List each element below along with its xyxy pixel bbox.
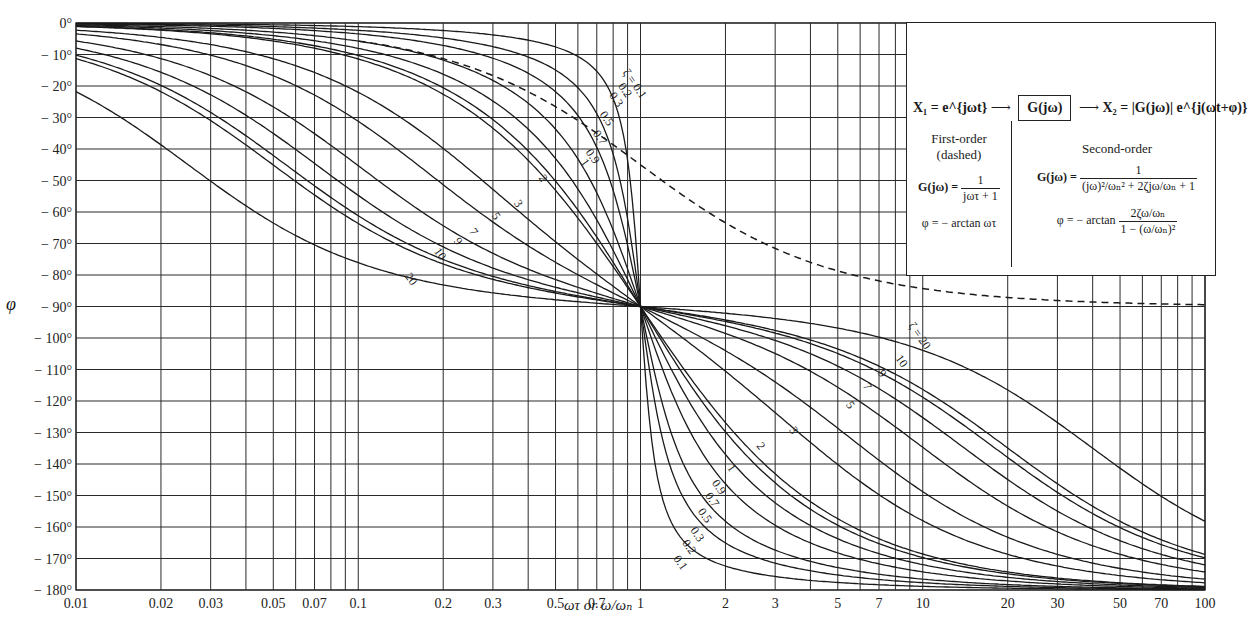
zeta-label-upper: 1 bbox=[578, 156, 593, 169]
zeta-label-lower: 7 bbox=[860, 380, 875, 393]
y-tick-label: − 60° bbox=[41, 205, 72, 220]
y-tick-label: − 90° bbox=[41, 300, 72, 315]
y-tick-label: − 70° bbox=[41, 237, 72, 252]
y-tick-label: 0° bbox=[59, 16, 72, 31]
y-tick-label: − 160° bbox=[34, 520, 72, 535]
y-tick-label: − 10° bbox=[41, 48, 72, 63]
zeta-label-lower: 2 bbox=[753, 439, 768, 452]
x-tick-label: 0.1 bbox=[350, 596, 368, 611]
second-order-column: Second-order G(jω) = 1(jω)²/ωₙ² + 2ζjω/ω… bbox=[1019, 141, 1215, 237]
x-tick-label: 50 bbox=[1113, 596, 1127, 611]
y-axis-label: φ bbox=[6, 294, 16, 315]
x-tick-label: 0.2 bbox=[434, 596, 452, 611]
zeta-label-upper: 20 bbox=[402, 270, 420, 288]
legend-divider bbox=[1011, 121, 1012, 267]
x-tick-label: 0.05 bbox=[261, 596, 286, 611]
y-tick-label: − 130° bbox=[34, 426, 72, 441]
first-order-title: First-order bbox=[911, 131, 1007, 147]
first-order-subtitle: (dashed) bbox=[911, 147, 1007, 163]
second-order-title: Second-order bbox=[1019, 141, 1215, 157]
zeta-label-lower: 3 bbox=[786, 424, 801, 437]
zeta-label-upper: 0.5 bbox=[597, 108, 617, 128]
arrow-right-icon: ⟶ bbox=[991, 100, 1015, 115]
y-tick-label: − 140° bbox=[34, 457, 72, 472]
legend-box: X₁ = e^{jωt} ⟶ G(jω) ⟶ X₂ = |G(jω)| e^{j… bbox=[906, 22, 1216, 276]
x-tick-label: 0.07 bbox=[302, 596, 327, 611]
zeta-label-upper: 5 bbox=[489, 210, 504, 223]
zeta-label-upper: 3 bbox=[511, 197, 526, 210]
x-tick-label: 0.03 bbox=[198, 596, 223, 611]
first-order-transfer: G(jω) = 1jωτ + 1 bbox=[911, 173, 1007, 204]
y-tick-label: − 150° bbox=[34, 489, 72, 504]
x-tick-label: 20 bbox=[1001, 596, 1015, 611]
second-order-phase: φ = − arctan 2ζω/ωₙ1 − (ω/ωₙ)² bbox=[1019, 206, 1215, 237]
x-tick-label: 2 bbox=[722, 596, 729, 611]
zeta-label-upper: 7 bbox=[466, 225, 481, 238]
y-tick-label: − 40° bbox=[41, 142, 72, 157]
y-tick-label: − 170° bbox=[34, 552, 72, 567]
input-signal: X₁ = e^{jωt} bbox=[913, 100, 987, 115]
x-tick-label: 7 bbox=[876, 596, 883, 611]
y-tick-label: − 50° bbox=[41, 174, 72, 189]
x-tick-label: 0.5 bbox=[547, 596, 565, 611]
zeta-label-lower: 9 bbox=[875, 367, 890, 380]
y-tick-label: − 20° bbox=[41, 79, 72, 94]
arrow-right-icon: ⟶ bbox=[1079, 100, 1103, 115]
y-tick-label: − 80° bbox=[41, 268, 72, 283]
x-tick-label: 0.02 bbox=[149, 596, 174, 611]
y-tick-label: − 180° bbox=[34, 583, 72, 598]
x-axis-label: ωτ or ω/ωₙ bbox=[564, 596, 632, 614]
x-tick-label: 100 bbox=[1195, 596, 1216, 611]
output-signal: X₂ = |G(jω)| e^{j(ωt+φ)} bbox=[1103, 100, 1248, 115]
transfer-block: G(jω) bbox=[1018, 95, 1071, 121]
zeta-label-lower: 5 bbox=[843, 399, 858, 412]
x-tick-label: 1 bbox=[637, 596, 644, 611]
x-tick-label: 0.01 bbox=[64, 596, 89, 611]
second-order-transfer: G(jω) = 1(jω)²/ωₙ² + 2ζjω/ωₙ + 1 bbox=[1019, 163, 1215, 194]
zeta-label-upper: 9 bbox=[451, 235, 466, 248]
y-tick-label: − 100° bbox=[34, 331, 72, 346]
x-tick-label: 70 bbox=[1154, 596, 1168, 611]
first-order-column: First-order (dashed) G(jω) = 1jωτ + 1 φ … bbox=[911, 131, 1007, 231]
zeta-label-lower: 1 bbox=[724, 462, 739, 475]
y-tick-label: − 30° bbox=[41, 111, 72, 126]
first-order-phase: φ = − arctan ωτ bbox=[911, 216, 1007, 231]
x-tick-label: 0.3 bbox=[484, 596, 502, 611]
x-tick-label: 5 bbox=[834, 596, 841, 611]
x-tick-label: 3 bbox=[772, 596, 779, 611]
x-tick-label: 10 bbox=[916, 596, 930, 611]
block-diagram: X₁ = e^{jωt} ⟶ G(jω) ⟶ X₂ = |G(jω)| e^{j… bbox=[913, 95, 1248, 121]
y-tick-label: − 110° bbox=[35, 363, 72, 378]
x-tick-label: 30 bbox=[1050, 596, 1064, 611]
y-tick-label: − 120° bbox=[34, 394, 72, 409]
